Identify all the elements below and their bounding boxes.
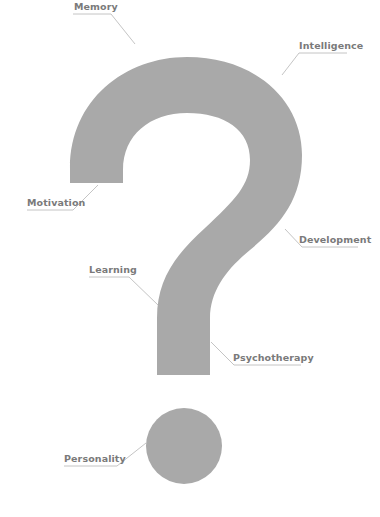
label-psychotherapy: Psychotherapy: [233, 352, 314, 364]
label-personality: Personality: [64, 453, 126, 465]
leader-line-memory: [73, 14, 135, 44]
question-mark-body: [70, 57, 302, 375]
label-motivation: Motivation: [27, 197, 85, 209]
label-development: Development: [299, 234, 371, 246]
label-intelligence: Intelligence: [299, 40, 363, 52]
question-mark-dot: [146, 408, 222, 484]
leader-line-intelligence: [282, 53, 347, 75]
leader-line-learning: [89, 277, 158, 305]
label-learning: Learning: [89, 264, 137, 276]
label-memory: Memory: [74, 1, 118, 13]
question-mark-diagram: [0, 0, 380, 517]
